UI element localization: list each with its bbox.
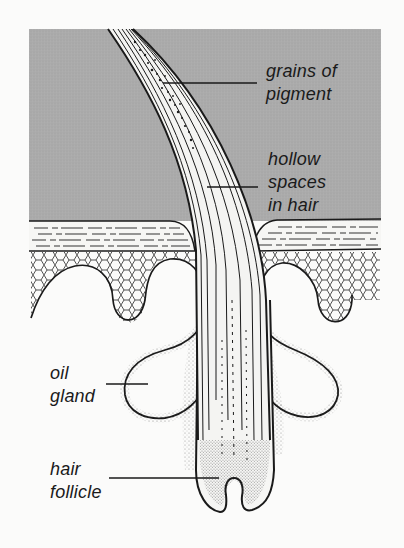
label-line: pigment — [266, 83, 337, 106]
label-line: gland — [50, 385, 95, 408]
label-line: follicle — [50, 481, 102, 504]
label-hollow-spaces: hollow spaces in hair — [268, 148, 326, 217]
label-line: in hair — [268, 194, 326, 217]
label-line: grains of — [266, 60, 337, 83]
label-hair-follicle: hair follicle — [50, 458, 102, 504]
label-line: oil — [50, 362, 95, 385]
label-line: hair — [50, 458, 102, 481]
label-line: hollow — [268, 148, 326, 171]
label-oil-gland: oil gland — [50, 362, 95, 408]
label-line: spaces — [268, 171, 326, 194]
label-grains-of-pigment: grains of pigment — [266, 60, 337, 106]
